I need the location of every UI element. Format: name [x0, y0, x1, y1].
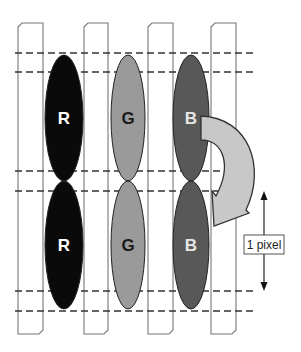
- subpixel-letter: G: [121, 236, 134, 255]
- subpixel-r-row-1: R: [45, 55, 83, 181]
- subpixel-g-row-2: G: [111, 181, 145, 309]
- curved-arrow-icon: [201, 116, 254, 226]
- pixel-column-strip-1: [18, 23, 43, 334]
- subpixel-r-row-2: R: [45, 181, 83, 309]
- subpixel-diagram: RGBRGB 1 pixel: [0, 0, 301, 352]
- subpixel-letter: G: [121, 109, 134, 128]
- subpixel-ellipses: RGBRGB: [45, 55, 209, 309]
- pixel-column-strip-3: [148, 23, 173, 334]
- curved-shift-arrow: [201, 116, 254, 226]
- subpixel-letter: R: [58, 236, 70, 255]
- pixel-column-strip-2: [84, 23, 108, 334]
- subpixel-g-row-1: G: [111, 55, 145, 181]
- subpixel-letter: B: [185, 236, 197, 255]
- arrow-up-icon: [261, 191, 268, 200]
- subpixel-letter: R: [58, 109, 70, 128]
- one-pixel-measure: 1 pixel: [244, 191, 284, 291]
- measure-label: 1 pixel: [247, 238, 282, 252]
- subpixel-b-row-2: B: [173, 181, 209, 309]
- subpixel-letter: B: [185, 109, 197, 128]
- arrow-down-icon: [261, 282, 268, 291]
